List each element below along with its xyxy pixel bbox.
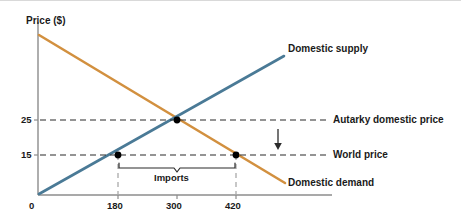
- chart-canvas: Price ($) Domestic supply Domestic deman…: [0, 0, 461, 216]
- y-axis-title: Price ($): [26, 16, 65, 26]
- x-tick-label-0: 0: [29, 201, 34, 211]
- x-tick-label-420: 420: [225, 201, 241, 211]
- imports-brace-icon: [119, 163, 235, 172]
- domestic-demand-curve: [39, 35, 285, 183]
- chart-plot-area: [0, 0, 461, 216]
- x-tick-label-180: 180: [107, 201, 123, 211]
- marker-demand-at-world-price: [233, 152, 240, 159]
- annotation-world-price: World price: [333, 150, 388, 160]
- series-label-domestic-supply: Domestic supply: [288, 44, 368, 54]
- marker-autarky-equilibrium: [174, 117, 181, 124]
- annotation-imports: Imports: [154, 173, 189, 183]
- marker-supply-at-world-price: [115, 152, 122, 159]
- x-tick-label-300: 300: [166, 201, 182, 211]
- y-tick-label-25: 25: [21, 115, 32, 125]
- annotation-autarky-domestic-price: Autarky domestic price: [333, 115, 444, 125]
- price-fall-arrow-head-icon: [274, 143, 282, 150]
- y-tick-label-15: 15: [21, 150, 32, 160]
- series-label-domestic-demand: Domestic demand: [288, 178, 374, 188]
